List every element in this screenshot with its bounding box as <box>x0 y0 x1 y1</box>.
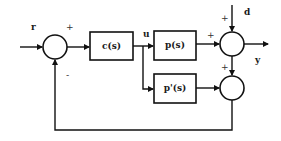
model-summing-junction <box>220 76 244 100</box>
output-sum-plant-sign: + <box>207 30 215 40</box>
input-sum-plus-sign: + <box>66 22 74 32</box>
block-diagram: r + - c(s) u p(s) p'(s) + d + y + <box>0 0 281 141</box>
output-label: y <box>254 55 261 65</box>
to-model-arrow <box>143 46 153 89</box>
reference-label: r <box>31 22 36 32</box>
controller-label: c(s) <box>102 41 121 51</box>
model-sum-plus-sign: + <box>221 62 229 72</box>
control-signal-label: u <box>143 29 150 39</box>
input-sum-minus-sign: - <box>66 70 69 80</box>
plant-label: p(s) <box>165 40 185 50</box>
output-summing-junction <box>220 32 244 56</box>
input-summing-junction <box>43 35 67 59</box>
output-sum-disturbance-sign: + <box>221 13 229 23</box>
disturbance-label: d <box>244 7 251 17</box>
plant-model-label: p'(s) <box>164 83 187 93</box>
